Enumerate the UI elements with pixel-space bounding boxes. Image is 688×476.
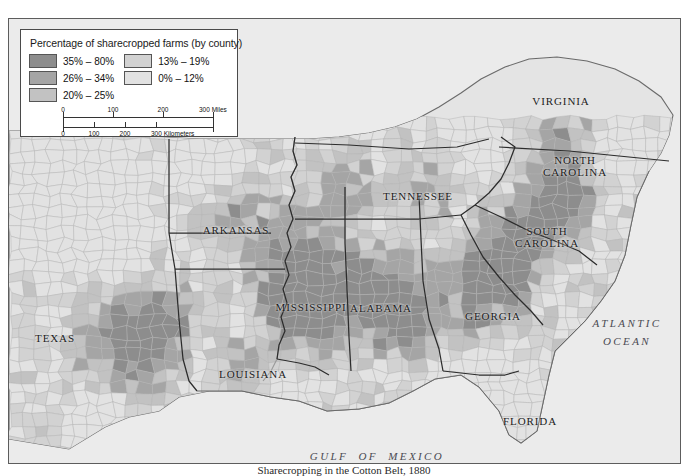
scale-tick-km-200	[125, 122, 126, 128]
state-label-tennessee: TENNESSEE	[383, 190, 453, 202]
legend-column-right: 13% – 19% 0% – 12%	[124, 54, 209, 102]
legend-item-35-80: 35% – 80%	[29, 54, 114, 68]
scale-line-km	[63, 127, 213, 128]
scale-num-km-100: 100	[89, 130, 100, 137]
legend-label-20-25: 20% – 25%	[63, 90, 114, 101]
legend-swatch-26-34	[29, 71, 57, 85]
state-label-arkansas: ARKANSAS	[203, 224, 270, 236]
state-label-mississippi: MISSISSIPPI	[275, 301, 346, 313]
figure-caption: Sharecropping in the Cotton Belt, 1880	[0, 464, 688, 476]
legend-item-26-34: 26% – 34%	[29, 71, 114, 85]
state-label-florida: FLORIDA	[503, 415, 557, 427]
scale-bars: 0 100 200 300 Miles 0 100 200 300 Kilome…	[63, 108, 235, 138]
state-label-louisiana: LOUISIANA	[219, 368, 287, 380]
scale-tick-miles-300	[213, 112, 214, 122]
legend-classes: 35% – 80% 26% – 34% 20% – 25% 13% – 19%	[29, 54, 229, 102]
legend-swatch-13-19	[124, 54, 152, 68]
map-page: TEXAS ARKANSAS LOUISIANA MISSISSIPPI ALA…	[0, 0, 688, 476]
legend-swatch-35-80	[29, 54, 57, 68]
water-label-atlantic-ocean: ATLANTIC OCEAN	[593, 314, 662, 350]
scale-tick-km-100	[94, 122, 95, 128]
scale-tick-km-end	[213, 122, 214, 132]
legend-item-13-19: 13% – 19%	[124, 54, 209, 68]
state-label-texas: TEXAS	[35, 332, 75, 344]
scale-tick-miles-0	[63, 112, 64, 122]
legend-swatch-0-12	[124, 71, 152, 85]
legend-item-20-25: 20% – 25%	[29, 88, 114, 102]
legend-label-35-80: 35% – 80%	[63, 56, 114, 67]
state-label-alabama: ALABAMA	[350, 302, 412, 314]
scale-unit-km: 300 Kilometers	[151, 130, 194, 137]
scale-num-km-200: 200	[120, 130, 131, 137]
scale-num-miles-0: 0	[61, 106, 65, 113]
water-label-gulf-of-mexico: GULF OF MEXICO	[310, 447, 444, 464]
state-label-south-carolina: SOUTH CAROLINA	[515, 225, 579, 249]
legend-label-26-34: 26% – 34%	[63, 73, 114, 84]
scale-unit-miles: 300 Miles	[199, 106, 227, 113]
state-label-georgia: GEORGIA	[465, 310, 521, 322]
legend-item-0-12: 0% – 12%	[124, 71, 209, 85]
map-legend: Percentage of sharecropped farms (by cou…	[20, 29, 238, 137]
legend-label-0-12: 0% – 12%	[158, 73, 204, 84]
legend-column-left: 35% – 80% 26% – 34% 20% – 25%	[29, 54, 114, 102]
scale-tick-km-300	[156, 122, 157, 128]
legend-title: Percentage of sharecropped farms (by cou…	[30, 37, 229, 49]
scale-num-miles-100: 100	[108, 106, 119, 113]
scale-line-miles	[63, 117, 213, 118]
state-label-north-carolina: NORTH CAROLINA	[543, 154, 607, 178]
legend-label-13-19: 13% – 19%	[158, 56, 209, 67]
scale-num-miles-200: 200	[158, 106, 169, 113]
legend-swatch-20-25	[29, 88, 57, 102]
state-label-virginia: VIRGINIA	[532, 95, 589, 107]
scale-num-km-0: 0	[61, 130, 65, 137]
